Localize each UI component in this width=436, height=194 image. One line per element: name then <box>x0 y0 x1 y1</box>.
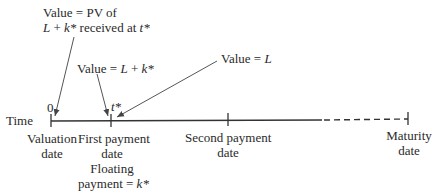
label-line: Valuation <box>24 131 80 146</box>
received-at: received at <box>76 20 139 35</box>
var-l: L <box>264 51 271 66</box>
var-k-star: k* <box>142 61 154 76</box>
valuation-date-label: Valuation date <box>24 131 80 161</box>
var-t-star: t* <box>140 20 150 35</box>
label-line: Second payment <box>185 130 271 145</box>
value-prefix: Value = <box>221 51 264 66</box>
zero-label: 0 <box>47 100 54 115</box>
label-line: date <box>385 143 433 158</box>
label-text: payment = <box>78 176 137 191</box>
timeline-dashed <box>324 119 408 120</box>
label-line: First payment <box>78 131 146 146</box>
l-plus-k-annotation: Value = L + k* <box>77 61 154 76</box>
plus: + <box>128 61 142 76</box>
arrow-lk-to-tstar <box>97 74 108 116</box>
maturity-date-label: Maturity date <box>385 128 433 158</box>
label-line: Floating <box>78 161 146 176</box>
arrow-pv-to-zero <box>55 37 74 116</box>
var-k-star: k* <box>64 20 76 35</box>
var-l: L <box>120 61 127 76</box>
timeline-solid <box>51 120 322 121</box>
pv-line2: L + k* received at t* <box>43 20 150 35</box>
var-k-star: k* <box>137 176 149 191</box>
l-annotation: Value = L <box>221 51 272 66</box>
pv-annotation: Value = PV of L + k* received at t* <box>43 5 150 35</box>
second-payment-date-label: Second payment date <box>185 130 271 160</box>
label-line: date <box>78 146 146 161</box>
value-prefix: Value = <box>77 61 120 76</box>
label-line: date <box>185 145 271 160</box>
label-line: Maturity <box>385 128 433 143</box>
time-axis-label: Time <box>6 113 33 128</box>
t-star-label: t* <box>111 99 121 114</box>
floating-payment-line: payment = k* <box>78 176 146 191</box>
first-payment-date-label: First payment date Floating payment = k* <box>78 131 146 191</box>
label-line: date <box>24 146 80 161</box>
pv-line1: Value = PV of <box>43 5 150 20</box>
plus: + <box>50 20 64 35</box>
